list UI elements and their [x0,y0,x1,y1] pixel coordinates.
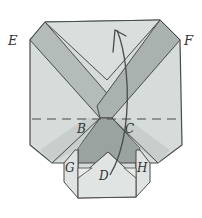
diagram-canvas: E F B C G D H [0,0,202,218]
label-E: E [7,33,18,48]
label-C: C [125,122,134,136]
label-G: G [65,161,75,175]
label-B: B [76,122,86,136]
label-H: H [136,161,148,175]
origami-diagram: E F B C G D H [0,0,202,218]
label-F: F [183,33,194,48]
label-D: D [98,169,109,183]
